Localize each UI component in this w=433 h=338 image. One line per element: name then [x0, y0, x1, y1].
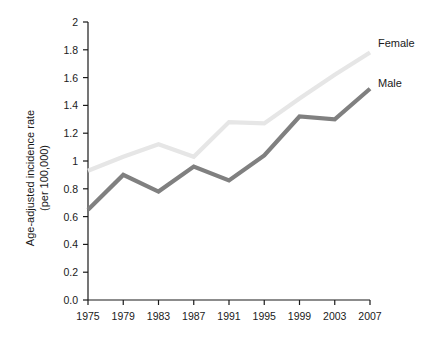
- y-tick-label: 0.0: [63, 294, 78, 306]
- x-tick-label: 1991: [217, 310, 241, 322]
- y-axis-title-line2: (per 100,000): [38, 145, 50, 211]
- y-tick-label: 1.2: [63, 127, 78, 139]
- series-label-male: Male: [378, 77, 402, 89]
- y-tick-label: 1: [72, 155, 78, 167]
- x-tick-label: 1979: [112, 310, 136, 322]
- series-label-female: Female: [378, 37, 415, 49]
- y-tick-label: 1.4: [63, 99, 78, 111]
- x-tick-label: 1999: [288, 310, 312, 322]
- y-tick-label: 0.6: [63, 211, 78, 223]
- x-tick-label: 1983: [147, 310, 171, 322]
- y-tick-label: 1.8: [63, 44, 78, 56]
- x-tick-label: 1975: [76, 310, 100, 322]
- x-tick-label: 2007: [358, 310, 382, 322]
- y-tick-label: 1.6: [63, 72, 78, 84]
- x-axis-tick-labels: 1975 1979 1983 1987 1991 1995 1999 2003 …: [76, 310, 382, 322]
- incidence-rate-line-chart: Age-adjusted incidence rate (per 100,000…: [0, 0, 433, 338]
- x-tick-label: 1995: [253, 310, 277, 322]
- y-tick-label: 0.8: [63, 183, 78, 195]
- y-axis-title-line1: Age-adjusted incidence rate: [24, 110, 36, 246]
- x-tick-label: 2003: [323, 310, 347, 322]
- y-tick-label: 0.2: [63, 266, 78, 278]
- y-tick-label: 0.4: [63, 238, 78, 250]
- x-tick-label: 1987: [182, 310, 206, 322]
- y-tick-label: 2: [72, 16, 78, 28]
